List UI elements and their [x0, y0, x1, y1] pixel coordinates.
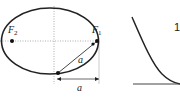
focus-f2-point [10, 39, 14, 43]
curve-figure: 1 [132, 17, 180, 84]
focus-f2-label: F2 [7, 24, 18, 37]
segment-end-point [91, 42, 94, 45]
diagram-canvas: F2 F1 a a 1 [0, 0, 180, 97]
dimension-arrow-left-icon [57, 77, 61, 81]
dimension-label: a [77, 82, 82, 93]
segment-label: a [78, 54, 83, 65]
curve-path [132, 17, 180, 84]
ellipse-figure: F2 F1 a a [0, 6, 102, 93]
bottom-vertex-point [56, 71, 60, 75]
focus-f1-label: F1 [91, 24, 102, 37]
dimension-arrow-right-icon [95, 77, 99, 81]
partial-label: 1 [174, 21, 180, 33]
